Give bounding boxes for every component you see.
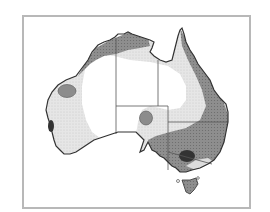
- island-2: [197, 177, 200, 180]
- island-1: [177, 180, 180, 183]
- australia-map: [0, 0, 270, 212]
- sa-spot: [140, 111, 153, 125]
- tasmania: [182, 178, 198, 194]
- western-spot: [58, 85, 76, 98]
